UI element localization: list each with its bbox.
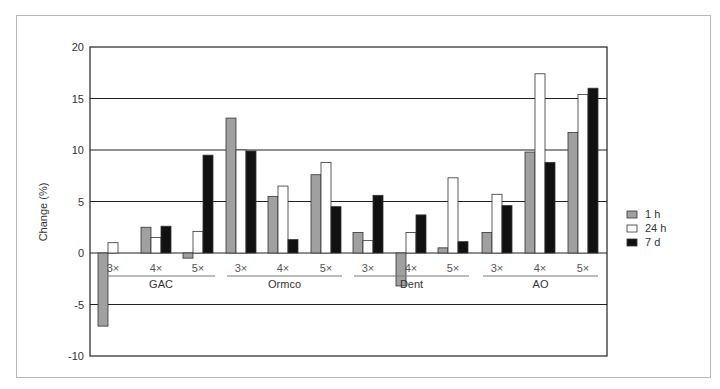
bar: [578, 94, 588, 253]
bar: [588, 88, 598, 253]
subcategory-label: 4×: [277, 262, 290, 274]
bar: [545, 162, 555, 253]
legend: 1 h24 h7 d: [627, 208, 666, 248]
bar: [363, 241, 373, 253]
bar: [246, 151, 256, 253]
legend-label: 24 h: [645, 222, 666, 234]
bar: [502, 206, 512, 253]
bar: [438, 248, 448, 253]
bar: [448, 178, 458, 253]
bar: [482, 232, 492, 253]
bar: [458, 242, 468, 253]
bar: [151, 238, 161, 253]
legend-swatch: [627, 239, 637, 246]
bar: [568, 132, 578, 253]
bar: [373, 195, 383, 253]
y-axis-label: Change (%): [37, 183, 49, 242]
bar: [161, 226, 171, 253]
subcategory-label: 5×: [192, 262, 205, 274]
bar: [268, 196, 278, 253]
subcategory-label: 5×: [577, 262, 590, 274]
y-tick-label: 5: [78, 196, 84, 208]
subcategory-label: 3×: [107, 262, 120, 274]
subcategory-label: 4×: [534, 262, 547, 274]
bar: [321, 162, 331, 253]
bar: [535, 74, 545, 253]
bar: [331, 207, 341, 253]
bar: [311, 175, 321, 253]
bar: [108, 243, 118, 253]
bar: [525, 152, 535, 253]
bar: [193, 231, 203, 253]
legend-label: 7 d: [645, 236, 660, 248]
subcategory-label: 4×: [150, 262, 163, 274]
group-label: Dent: [400, 278, 423, 290]
subcategory-label: 4×: [405, 262, 418, 274]
legend-swatch: [627, 225, 637, 232]
legend-swatch: [627, 211, 637, 218]
group-label: Ormco: [268, 278, 301, 290]
subcategory-label: 5×: [447, 262, 460, 274]
y-tick-label: 10: [72, 144, 84, 156]
subcategory-label: 3×: [491, 262, 504, 274]
y-tick-label: 0: [78, 247, 84, 259]
bar: [278, 186, 288, 253]
subcategory-label: 3×: [235, 262, 248, 274]
bar: [183, 253, 193, 258]
bar: [406, 232, 416, 253]
y-axis-ticks: 20151050-5-10: [68, 41, 84, 362]
bar: [492, 194, 502, 253]
group-label: AO: [533, 278, 549, 290]
y-tick-label: -5: [74, 299, 84, 311]
y-tick-label: 20: [72, 41, 84, 53]
x-axis-labels: 3×4×5×3×4×5×3×4×5×3×4×5×GACOrmcoDentAO: [107, 262, 598, 290]
bar: [226, 118, 236, 253]
bar: [288, 240, 298, 253]
bars: [98, 74, 598, 326]
bar-chart: 20151050-5-10 3×4×5×3×4×5×3×4×5×3×4×5×GA…: [0, 0, 720, 389]
legend-label: 1 h: [645, 208, 660, 220]
bar: [203, 155, 213, 253]
bar: [141, 227, 151, 253]
bar: [236, 150, 246, 253]
subcategory-label: 3×: [362, 262, 375, 274]
bar: [353, 232, 363, 253]
y-tick-label: -10: [68, 350, 84, 362]
y-tick-label: 15: [72, 93, 84, 105]
subcategory-label: 5×: [320, 262, 333, 274]
bar: [416, 215, 426, 253]
group-label: GAC: [149, 278, 173, 290]
